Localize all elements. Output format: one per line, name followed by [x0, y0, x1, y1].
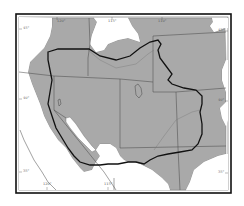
- lon-label-bottom-2: 115°: [104, 183, 112, 187]
- lat-label-left-2: 40°: [23, 97, 29, 101]
- range-map: [0, 0, 244, 206]
- lat-label-right-3: 35°: [218, 171, 224, 175]
- lat-label-left-1: 45°: [23, 27, 29, 31]
- lat-label-left-3: 35°: [23, 170, 29, 174]
- lon-label-top-3: 110°: [158, 20, 166, 24]
- lon-label-bottom-1: 120°: [43, 183, 51, 187]
- lat-label-right-1: 45°: [218, 29, 224, 33]
- lon-label-top-2: 115°: [108, 20, 116, 24]
- lon-label-top-1: 120°: [57, 20, 65, 24]
- lat-label-right-2: 40°: [218, 99, 224, 103]
